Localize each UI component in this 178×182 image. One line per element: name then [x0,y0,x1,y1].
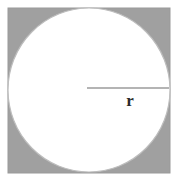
geometry-figure: r [0,0,178,182]
radius-label: r [121,92,139,110]
figure-canvas [0,0,178,182]
inscribed-circle [8,8,170,172]
